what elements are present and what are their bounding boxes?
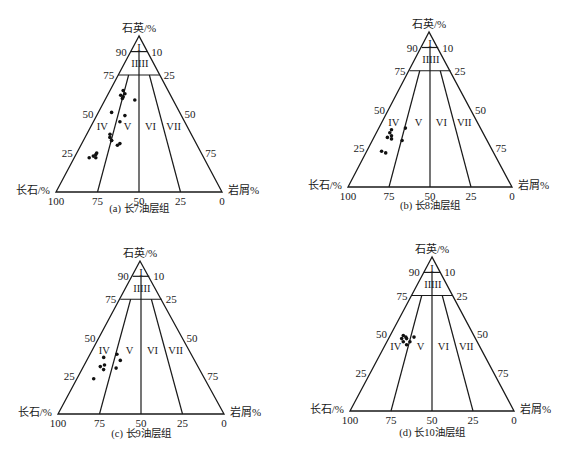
bottom-tick-label: 0 — [509, 190, 515, 202]
data-point — [119, 359, 123, 363]
right-tick-label: 50 — [187, 332, 199, 344]
data-point — [133, 98, 137, 102]
lithic-axis-label: 岩屑% — [520, 402, 551, 415]
zone-label-V: V — [124, 121, 132, 132]
zone-label-I: I — [137, 42, 141, 53]
right-tick-label: 50 — [477, 328, 489, 340]
data-point — [121, 89, 125, 93]
left-tick-label: 50 — [374, 104, 386, 116]
zone-label-VII: VII — [168, 345, 183, 356]
zone-label-III: III — [431, 279, 442, 290]
data-point — [94, 156, 98, 160]
panel-caption: (d) 长10油层组 — [399, 426, 465, 439]
data-point — [402, 340, 406, 344]
lithic-axis-label: 岩屑% — [230, 405, 261, 418]
bottom-tick-label: 75 — [384, 190, 396, 202]
right-tick-label: 50 — [475, 104, 487, 116]
ratio-75-line — [391, 296, 422, 412]
right-tick-label: 10 — [442, 42, 454, 54]
zone-label-IV: IV — [388, 117, 399, 128]
zone-label-III: III — [429, 54, 440, 65]
right-tick-label: 25 — [166, 293, 178, 305]
data-point — [408, 340, 412, 344]
right-tick-label: 25 — [455, 65, 467, 77]
panel-caption: (a) 长7油层组 — [109, 202, 170, 215]
right-tick-label: 75 — [498, 367, 510, 379]
data-point — [110, 111, 114, 115]
zone-label-VII: VII — [457, 117, 472, 128]
right-tick-label: 25 — [164, 69, 176, 81]
ratio-25-line — [440, 71, 471, 187]
data-point — [108, 136, 112, 140]
data-point — [412, 335, 416, 339]
right-tick-label: 75 — [207, 370, 219, 382]
feldspar-axis-label: 长石/% — [308, 179, 342, 191]
right-tick-label: 25 — [457, 290, 469, 302]
data-point — [404, 126, 408, 130]
data-point — [400, 337, 404, 341]
bottom-tick-label: 100 — [342, 414, 359, 426]
right-tick-label: 10 — [444, 266, 456, 278]
bottom-tick-label: 0 — [219, 195, 225, 207]
zone-label-V: V — [417, 341, 425, 352]
bottom-tick-label: 100 — [340, 190, 357, 202]
ratio-25-line — [151, 299, 182, 414]
ternary-panel-a: 90755025102550751007550250石英/%长石/%岩屑%III… — [16, 21, 259, 215]
bottom-tick-label: 50 — [427, 414, 439, 426]
left-tick-label: 25 — [354, 142, 366, 154]
left-tick-label: 90 — [116, 46, 128, 58]
right-tick-label: 10 — [151, 46, 163, 58]
left-tick-label: 75 — [103, 69, 115, 81]
left-tick-label: 75 — [395, 65, 407, 77]
data-point — [405, 343, 409, 347]
data-point — [400, 139, 404, 143]
left-tick-label: 50 — [85, 332, 97, 344]
data-point — [102, 356, 106, 360]
figure-canvas: 90755025102550751007550250石英/%长石/%岩屑%III… — [0, 0, 561, 455]
bottom-tick-label: 75 — [92, 195, 104, 207]
ternary-panel-b: 90755025102550751007550250石英/%长石/%岩屑%III… — [308, 17, 549, 212]
data-point — [123, 92, 127, 96]
left-tick-label: 90 — [409, 266, 421, 278]
zone-label-I: I — [139, 267, 143, 278]
bottom-tick-label: 75 — [94, 417, 106, 429]
bottom-tick-label: 100 — [48, 195, 65, 207]
quartz-axis-label: 石英/% — [123, 246, 157, 259]
data-point — [102, 368, 106, 372]
feldspar-axis-label: 长石/% — [310, 403, 344, 415]
data-point — [386, 136, 390, 140]
left-tick-label: 90 — [407, 42, 419, 54]
ratio-25-line — [442, 296, 473, 412]
ternary-panel-c: 90755025102550751007550250石英/%长石/%岩屑%III… — [18, 246, 261, 440]
lithic-axis-label: 岩屑% — [228, 183, 259, 196]
data-point — [99, 365, 103, 369]
zone-label-IV: IV — [99, 345, 110, 356]
data-point — [92, 377, 96, 381]
data-point — [115, 353, 119, 357]
panel-caption: (b) 长8油层组 — [400, 199, 461, 212]
left-tick-label: 75 — [105, 293, 117, 305]
left-tick-label: 75 — [397, 290, 409, 302]
right-tick-label: 10 — [153, 270, 165, 282]
zone-label-V: V — [126, 345, 134, 356]
zone-label-VI: VI — [147, 345, 159, 356]
data-point — [390, 137, 394, 141]
quartz-axis-label: 石英/% — [122, 21, 156, 34]
data-point — [114, 366, 118, 370]
feldspar-axis-label: 长石/% — [18, 406, 52, 418]
data-point — [390, 128, 394, 132]
zone-label-VI: VI — [438, 341, 450, 352]
quartz-axis-label: 石英/% — [415, 242, 449, 255]
data-point — [118, 120, 122, 124]
data-point — [390, 134, 394, 138]
right-tick-label: 75 — [205, 147, 217, 159]
left-tick-label: 25 — [62, 147, 74, 159]
zone-label-VII: VII — [166, 121, 181, 132]
feldspar-axis-label: 长石/% — [16, 184, 50, 196]
data-point — [380, 150, 384, 154]
bottom-tick-label: 25 — [175, 195, 187, 207]
right-tick-label: 50 — [185, 108, 197, 120]
bottom-tick-label: 25 — [466, 190, 478, 202]
bottom-tick-label: 75 — [386, 414, 398, 426]
bottom-tick-label: 100 — [50, 417, 67, 429]
